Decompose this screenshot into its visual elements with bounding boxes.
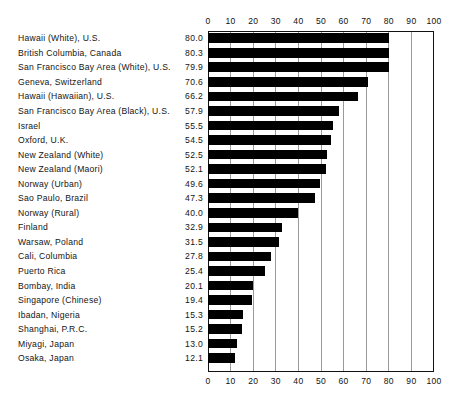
- value-label: 20.1: [185, 281, 203, 291]
- bar: [208, 281, 253, 291]
- bar-row: [208, 147, 434, 162]
- value-label: 27.8: [185, 251, 203, 261]
- value-label: 70.6: [185, 77, 203, 87]
- value-label: 40.0: [185, 208, 203, 218]
- value-label: 15.3: [185, 310, 203, 320]
- bar: [208, 252, 271, 262]
- bar-row: [208, 249, 434, 264]
- bar-row: [208, 191, 434, 206]
- category-row: New Zealand (White)52.5: [0, 147, 208, 162]
- bar-row: [208, 307, 434, 322]
- value-label: 12.1: [185, 353, 203, 363]
- category-label: Hawaii (White), U.S.: [18, 33, 100, 43]
- category-row: Osaka, Japan12.1: [0, 351, 208, 366]
- bar-row: [208, 293, 434, 308]
- category-row: Warsaw, Poland31.5: [0, 235, 208, 250]
- value-label: 25.4: [185, 266, 203, 276]
- bar-row: [208, 322, 434, 337]
- value-label: 52.5: [185, 150, 203, 160]
- bar-row: [208, 235, 434, 250]
- axis-tick-label: 90: [406, 376, 416, 387]
- value-label: 54.5: [185, 135, 203, 145]
- bar-row: [208, 104, 434, 119]
- axis-tick-label: 10: [226, 16, 236, 27]
- bar: [208, 193, 315, 203]
- bar-row: [208, 60, 434, 75]
- value-label: 57.9: [185, 106, 203, 116]
- category-row: Norway (Urban)49.6: [0, 176, 208, 191]
- category-label: New Zealand (Maori): [18, 164, 103, 174]
- category-row: Puerto Rica25.4: [0, 264, 208, 279]
- bar-row: [208, 162, 434, 177]
- bar-chart: 0102030405060708090100 Hawaii (White), U…: [0, 0, 454, 407]
- category-row: Singapore (Chinese)19.4: [0, 293, 208, 308]
- value-label: 80.3: [185, 48, 203, 58]
- category-row: San Francisco Bay Area (Black), U.S.57.9: [0, 104, 208, 119]
- value-label: 32.9: [185, 222, 203, 232]
- category-label: Osaka, Japan: [18, 353, 74, 363]
- category-row: Hawaii (Hawaiian), U.S.66.2: [0, 89, 208, 104]
- bar-row: [208, 264, 434, 279]
- axis-tick-label: 40: [293, 376, 303, 387]
- bar: [208, 164, 326, 174]
- bar-row: [208, 336, 434, 351]
- category-row: Finland32.9: [0, 220, 208, 235]
- category-label: British Columbia, Canada: [18, 48, 121, 58]
- category-label: Norway (Urban): [18, 179, 82, 189]
- category-label: Cali, Columbia: [18, 251, 77, 261]
- bar: [208, 310, 243, 320]
- category-row: Shanghai, P.R.C.15.2: [0, 322, 208, 337]
- bar-row: [208, 133, 434, 148]
- bar-row: [208, 118, 434, 133]
- axis-tick-label: 30: [271, 16, 281, 27]
- axis-tick-label: 50: [316, 16, 326, 27]
- category-label: Norway (Rural): [18, 208, 79, 218]
- bar-row: [208, 176, 434, 191]
- bar: [208, 295, 252, 305]
- category-label: Israel: [18, 121, 41, 131]
- category-label: San Francisco Bay Area (Black), U.S.: [18, 106, 170, 116]
- x-axis-bottom: 0102030405060708090100: [208, 376, 434, 387]
- bar: [208, 121, 333, 131]
- category-label: Shanghai, P.R.C.: [18, 324, 87, 334]
- bar: [208, 135, 331, 145]
- axis-tick-label: 60: [339, 376, 349, 387]
- value-label: 15.2: [185, 324, 203, 334]
- category-label: Warsaw, Poland: [18, 237, 83, 247]
- x-axis-top: 0102030405060708090100: [208, 16, 434, 27]
- bar: [208, 353, 235, 363]
- category-row: Oxford, U.K.54.5: [0, 133, 208, 148]
- axis-tick-label: 0: [205, 16, 210, 27]
- category-row: Hawaii (White), U.S.80.0: [0, 31, 208, 46]
- value-label: 79.9: [185, 62, 203, 72]
- category-label: Puerto Rica: [18, 266, 66, 276]
- bar-row: [208, 75, 434, 90]
- axis-tick-label: 70: [361, 376, 371, 387]
- bar: [208, 92, 358, 102]
- category-label: Ibadan, Nigeria: [18, 310, 80, 320]
- bar-row: [208, 278, 434, 293]
- value-label: 31.5: [185, 237, 203, 247]
- value-label: 47.3: [185, 193, 203, 203]
- category-label: Singapore (Chinese): [18, 295, 102, 305]
- axis-tick-label: 50: [316, 376, 326, 387]
- axis-tick-label: 40: [293, 16, 303, 27]
- bar: [208, 48, 389, 58]
- category-label: Finland: [18, 222, 48, 232]
- value-label: 80.0: [185, 33, 203, 43]
- value-label: 52.1: [185, 164, 203, 174]
- category-label: Oxford, U.K.: [18, 135, 68, 145]
- category-label: Miyagi, Japan: [18, 339, 74, 349]
- category-row: British Columbia, Canada80.3: [0, 46, 208, 61]
- bar: [208, 237, 279, 247]
- bar: [208, 77, 368, 87]
- axis-tick-label: 100: [426, 16, 441, 27]
- bar: [208, 223, 282, 233]
- bar-row: [208, 220, 434, 235]
- value-label: 55.5: [185, 121, 203, 131]
- value-label: 66.2: [185, 91, 203, 101]
- category-row: New Zealand (Maori)52.1: [0, 162, 208, 177]
- axis-tick-label: 30: [271, 376, 281, 387]
- category-row: Bombay, India20.1: [0, 278, 208, 293]
- bar: [208, 339, 237, 349]
